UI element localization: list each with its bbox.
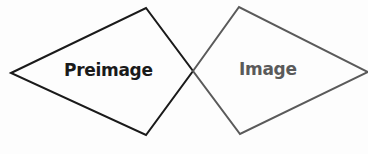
image-label: Image: [239, 59, 297, 79]
shapes-svg: [0, 0, 368, 154]
diagram-canvas: Preimage Image: [0, 0, 368, 154]
preimage-label: Preimage: [64, 60, 153, 80]
